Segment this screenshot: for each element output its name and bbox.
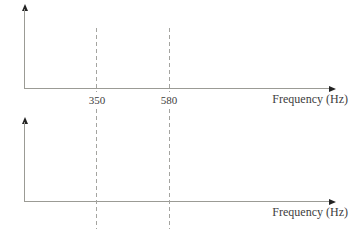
- tick-label-350: 350: [80, 94, 114, 106]
- bottom-y-axis: [24, 122, 25, 201]
- top-x-axis: [24, 88, 330, 89]
- top-x-axis-label: Frequency (Hz): [248, 93, 348, 106]
- bottom-x-axis: [24, 201, 330, 202]
- bottom-x-axis-label: Frequency (Hz): [248, 206, 348, 219]
- dashed-line-580-lower: [169, 109, 170, 229]
- dashed-line-580-upper: [169, 28, 170, 92]
- frequency-diagram: 350 580 Frequency (Hz) Frequency (Hz): [0, 0, 351, 242]
- dashed-line-350-lower: [96, 109, 97, 229]
- bottom-x-axis-arrow-icon: [329, 199, 336, 205]
- tick-label-580: 580: [152, 94, 186, 106]
- dashed-line-350-upper: [96, 28, 97, 92]
- top-x-axis-arrow-icon: [329, 86, 336, 92]
- top-y-axis: [24, 9, 25, 88]
